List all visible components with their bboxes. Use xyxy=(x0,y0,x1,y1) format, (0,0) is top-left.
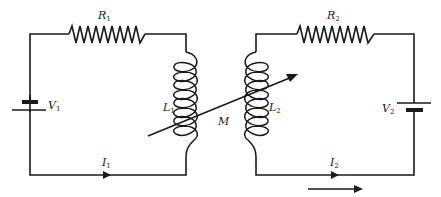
circuit-diagram: R1 R2 V1 V2 L1 L2 M I1 I2 xyxy=(0,0,441,197)
label-r1: R1 xyxy=(97,9,111,23)
label-v1: V1 xyxy=(48,99,60,113)
current-arrow-i2 xyxy=(331,171,339,179)
label-l2: L2 xyxy=(268,101,281,115)
label-l1: L1 xyxy=(162,101,175,115)
current-arrow-i1 xyxy=(103,171,111,179)
right-wire-top-left xyxy=(256,34,297,52)
direction-arrow-head xyxy=(354,185,363,193)
label-r2: R2 xyxy=(326,9,340,23)
label-i1: I1 xyxy=(101,156,111,170)
inductor-l2 xyxy=(245,52,269,157)
left-wire-top-right xyxy=(145,34,186,52)
inductor-l1 xyxy=(174,52,198,157)
right-wire-top-right xyxy=(374,34,414,103)
label-m: M xyxy=(217,115,230,128)
resistor-r1 xyxy=(69,26,145,43)
label-i2: I2 xyxy=(329,156,339,170)
resistor-r2 xyxy=(297,26,374,43)
label-v2: V2 xyxy=(382,102,394,116)
